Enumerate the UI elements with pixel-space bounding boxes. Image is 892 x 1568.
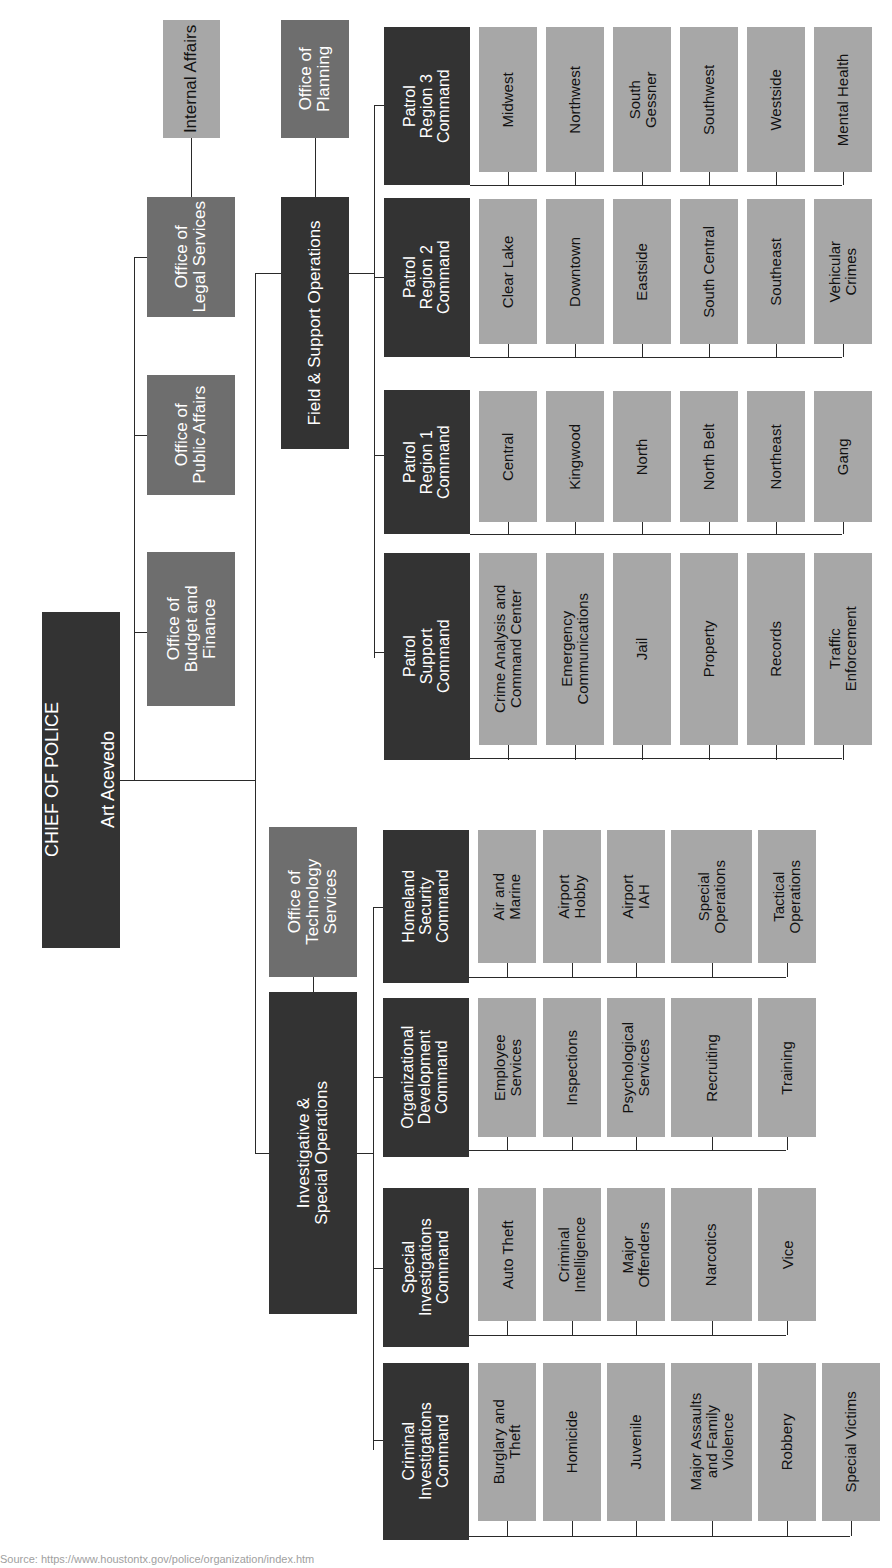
unit-property-label: Property xyxy=(701,621,717,678)
connector xyxy=(313,977,314,992)
unit-robbery-label: Robbery xyxy=(779,1414,795,1471)
unit-connector xyxy=(642,344,643,357)
command-criminal-investigations-command: Criminal Investigations Command xyxy=(383,1363,469,1540)
unit-connector xyxy=(572,963,573,977)
command-criminal-investigations-command-label: Criminal Investigations Command xyxy=(401,1403,451,1501)
connector xyxy=(374,277,384,278)
unit-major-offenders: Major Offenders xyxy=(607,1188,665,1321)
unit-auto-theft-label: Auto Theft xyxy=(499,1220,515,1289)
unit-juvenile-label: Juvenile xyxy=(628,1414,644,1469)
unit-airport-iah: Airport IAH xyxy=(607,830,665,963)
unit-north: North xyxy=(613,391,671,522)
unit-connector xyxy=(843,745,844,760)
unit-airport-hobby-label: Airport Hobby xyxy=(556,874,588,918)
chief-of-police-box: CHIEF OF POLICE Art Acevedo xyxy=(42,612,120,948)
command-patrol-region-1-command-label: Patrol Region 1 Command xyxy=(402,425,452,499)
unit-connector xyxy=(642,522,643,534)
unit-records-label: Records xyxy=(768,621,784,677)
unit-connector xyxy=(575,344,576,357)
unit-connector xyxy=(709,522,710,534)
unit-connector xyxy=(709,745,710,760)
connector xyxy=(373,1440,383,1441)
connector xyxy=(374,455,384,456)
unit-connector xyxy=(575,745,576,760)
office-technology-services: Office of Technology Services xyxy=(269,827,357,977)
unit-narcotics-label: Narcotics xyxy=(704,1223,720,1286)
unit-south-central: South Central xyxy=(680,199,738,344)
unit-burglary-and-theft: Burglary and Theft xyxy=(478,1363,536,1521)
unit-bus xyxy=(470,534,842,535)
unit-major-assaults-and-family-violence: Major Assaults and Family Violence xyxy=(671,1363,752,1521)
unit-emergency-communications-label: Emergency Communications xyxy=(559,593,591,705)
connector xyxy=(374,105,384,106)
command-patrol-region-3-command: Patrol Region 3 Command xyxy=(384,27,470,185)
unit-mental-health-label: Mental Health xyxy=(835,53,851,146)
unit-clear-lake-label: Clear Lake xyxy=(500,235,516,308)
unit-connector xyxy=(508,522,509,534)
unit-gang-label: Gang xyxy=(835,438,851,475)
unit-midwest-label: Midwest xyxy=(500,72,516,127)
unit-training-label: Training xyxy=(779,1041,795,1095)
unit-connector xyxy=(843,522,844,534)
office-public-affairs-label: Office of Public Affairs xyxy=(173,386,209,484)
command-homeland-security-command: Homeland Security Command xyxy=(383,830,469,983)
connector xyxy=(134,435,147,436)
office-legal-services-label: Office of Legal Services xyxy=(173,201,209,313)
chief-title: CHIEF OF POLICE xyxy=(43,702,62,857)
command-organizational-development-command-label: Organizational Development Command xyxy=(401,1026,451,1129)
unit-eastside: Eastside xyxy=(613,199,671,344)
connector xyxy=(134,632,147,633)
unit-special-operations: Special Operations xyxy=(671,830,752,963)
unit-inspections: Inspections xyxy=(543,998,601,1137)
unit-bus xyxy=(469,977,786,978)
unit-employee-services-label: Employee Services xyxy=(491,1034,523,1101)
unit-crime-analysis-and-command-center-label: Crime Analysis and Command Center xyxy=(492,585,524,713)
unit-connector xyxy=(636,1137,637,1150)
unit-robbery: Robbery xyxy=(758,1363,816,1521)
command-patrol-region-2-command-label: Patrol Region 2 Command xyxy=(402,241,452,315)
connector xyxy=(255,273,256,1153)
unit-bus xyxy=(470,758,842,759)
unit-connector xyxy=(507,1321,508,1335)
unit-south-central-label: South Central xyxy=(701,226,717,318)
unit-connector xyxy=(642,745,643,760)
unit-connector xyxy=(508,344,509,357)
office-technology-services-label: Office of Technology Services xyxy=(286,859,340,945)
unit-connector xyxy=(712,1521,713,1536)
unit-crime-analysis-and-command-center: Crime Analysis and Command Center xyxy=(479,553,537,745)
unit-eastside-label: Eastside xyxy=(634,243,650,301)
office-legal-services: Office of Legal Services xyxy=(147,197,235,317)
office-planning-label: Office of Planning xyxy=(297,46,333,112)
unit-connector xyxy=(572,1521,573,1536)
unit-connector xyxy=(712,963,713,977)
unit-kingwood-label: Kingwood xyxy=(567,424,583,490)
unit-northwest: Northwest xyxy=(546,27,604,172)
unit-southeast: Southeast xyxy=(747,199,805,344)
unit-connector xyxy=(712,1321,713,1335)
office-budget-finance: Office of Budget and Finance xyxy=(147,552,235,706)
unit-jail: Jail xyxy=(613,553,671,745)
unit-north-belt: North Belt xyxy=(680,391,738,522)
unit-connector xyxy=(636,963,637,977)
unit-westside: Westside xyxy=(747,27,805,172)
unit-records: Records xyxy=(747,553,805,745)
unit-southeast-label: Southeast xyxy=(768,238,784,306)
connector xyxy=(373,1268,383,1269)
unit-traffic-enforcement-label: Traffic Enforcement xyxy=(827,606,859,691)
unit-connector xyxy=(507,1137,508,1150)
unit-bus xyxy=(470,185,842,186)
command-special-investigations-command-label: Special Investigations Command xyxy=(401,1219,451,1317)
command-special-investigations-command: Special Investigations Command xyxy=(383,1188,469,1347)
unit-vehicular-crimes: Vehicular Crimes xyxy=(814,199,872,344)
unit-connector xyxy=(776,522,777,534)
unit-connector xyxy=(776,344,777,357)
unit-south-gessner-label: South Gessner xyxy=(626,71,658,128)
unit-air-and-marine-label: Air and Marine xyxy=(491,873,523,921)
unit-southwest-label: Southwest xyxy=(701,64,717,134)
unit-auto-theft: Auto Theft xyxy=(478,1188,536,1321)
unit-downtown-label: Downtown xyxy=(567,236,583,306)
unit-psychological-services-label: Psychological Services xyxy=(620,1022,652,1114)
unit-gang: Gang xyxy=(814,391,872,522)
unit-westside-label: Westside xyxy=(768,69,784,130)
connector xyxy=(191,138,192,197)
